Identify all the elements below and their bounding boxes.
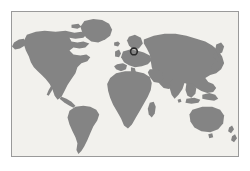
world-map-graphic [12,12,238,156]
figure-canvas [0,0,250,171]
world-map-frame [11,11,239,157]
